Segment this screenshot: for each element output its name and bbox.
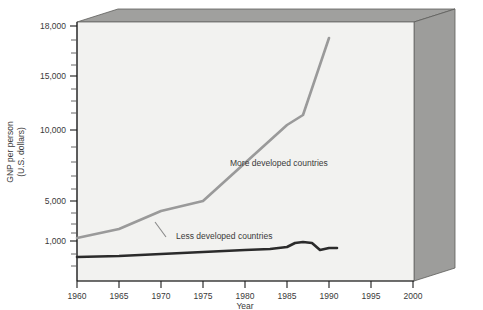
slab-right-face [414,9,455,281]
x-tick-label-1980: 1980 [236,291,255,301]
x-axis-title: Year [236,301,253,310]
x-tick-label-1985: 1985 [278,291,297,301]
x-tick-label-1965: 1965 [110,291,129,301]
series-label-more-developed: More developed countries [230,158,328,168]
x-tick-label-1970: 1970 [152,291,171,301]
y-tick-label-10000: 10,000 [40,125,66,135]
x-tick-label-2000: 2000 [404,291,423,301]
chart-figure: 18,000 15,000 10,000 5,000 1,000 1960 19… [0,0,483,310]
y-axis-title-line1: GNP per person [5,121,15,183]
x-axis-ticks [77,281,413,288]
x-tick-label-1975: 1975 [194,291,213,301]
series-label-less-developed: Less developed countries [176,231,272,241]
y-axis-title-line2: (U.S. dollars) [16,127,26,177]
y-axis-minor-ticks [71,40,77,266]
x-tick-label-1995: 1995 [362,291,381,301]
y-axis-major-ticks [70,26,77,241]
x-tick-label-1960: 1960 [68,291,87,301]
plot-area-background [77,22,414,281]
y-tick-label-18000: 18,000 [40,21,66,31]
y-tick-label-15000: 15,000 [40,71,66,81]
y-tick-label-5000: 5,000 [45,196,67,206]
y-tick-label-1000: 1,000 [45,236,67,246]
gnp-line-chart: 18,000 15,000 10,000 5,000 1,000 1960 19… [0,0,483,310]
x-tick-label-1990: 1990 [320,291,339,301]
y-axis-title: GNP per person (U.S. dollars) [5,121,26,183]
slab-top-face [77,9,455,22]
